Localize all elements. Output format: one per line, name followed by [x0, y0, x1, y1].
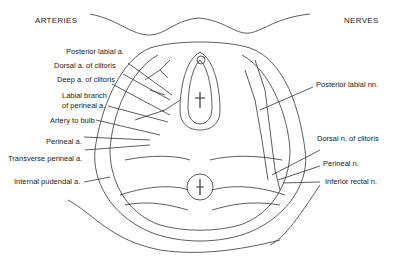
- label-dorsal-artery-of-clitoris: Dorsal a. of clitoris: [54, 62, 116, 70]
- label-inferior-rectal-nerve: Inferior rectal n.: [325, 178, 377, 186]
- label-dorsal-nerve-of-clitoris: Dorsal n. of clitoris: [317, 135, 379, 143]
- label-internal-pudendal-artery: Internal pudendal a.: [14, 178, 80, 186]
- label-transverse-perineal-artery: Transverse perineal a.: [8, 155, 82, 163]
- arteries-heading: ARTERIES: [35, 16, 77, 25]
- label-deep-artery-of-clitoris: Deep a. of clitoris: [57, 76, 115, 84]
- nerves-heading: NERVES: [344, 16, 379, 25]
- perineum-illustration: [0, 0, 396, 262]
- label-labial-branch: Labial branch: [62, 92, 107, 100]
- label-perineal-artery: Perineal a.: [46, 138, 82, 146]
- label-of-perineal-artery: of perineal a.: [62, 102, 105, 110]
- label-perineal-nerve: Perineal n.: [323, 160, 359, 168]
- label-posterior-labial-artery: Posterior labial a.: [66, 48, 124, 56]
- label-posterior-labial-nerves: Posterior labial nn.: [316, 81, 378, 89]
- label-artery-to-bulb: Artery to bulb: [50, 117, 95, 125]
